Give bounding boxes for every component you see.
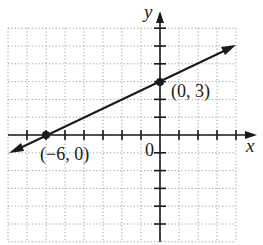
point-label-neg6-0: (−6, 0)	[40, 144, 89, 165]
origin-label: 0	[145, 140, 154, 160]
point-label-0-3: (0, 3)	[171, 81, 210, 102]
line-arrow-left-icon	[9, 143, 24, 153]
point-0-3	[156, 78, 164, 86]
point-neg6-0	[42, 131, 50, 139]
y-axis-arrow-icon	[156, 11, 164, 23]
axis-ticks	[27, 28, 236, 224]
y-axis-label: y	[142, 1, 153, 22]
x-axis-label: x	[245, 135, 255, 156]
coordinate-plane: y x 0 (−6, 0) (0, 3)	[0, 0, 263, 245]
